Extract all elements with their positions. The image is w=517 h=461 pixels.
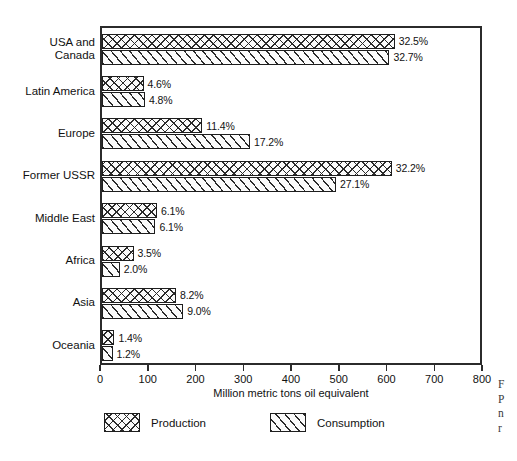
- x-tick-label: 200: [186, 373, 204, 385]
- side-caption-line: n: [498, 406, 517, 421]
- bar-group: Asia8.2%9.0%: [102, 288, 484, 319]
- bar-value-label: 17.2%: [254, 136, 283, 148]
- legend-label-production: Production: [151, 417, 206, 429]
- legend-swatch-consumption-icon: [270, 413, 306, 432]
- legend-label-consumption: Consumption: [317, 417, 385, 429]
- bar-value-label: 6.1%: [161, 205, 185, 217]
- bar-value-label: 27.1%: [340, 178, 369, 190]
- bar-row: 17.2%: [102, 134, 484, 149]
- legend-swatch-production-icon: [104, 413, 140, 432]
- x-tick-label: 500: [330, 373, 348, 385]
- bar-production: [102, 288, 176, 303]
- x-tick: [243, 365, 245, 371]
- side-caption-line: r: [498, 421, 517, 436]
- category-label: Former USSR: [6, 169, 102, 183]
- bar-group: Latin America4.6%4.8%: [102, 76, 484, 107]
- bar-value-label: 4.6%: [148, 78, 172, 90]
- x-tick-label: 0: [97, 373, 103, 385]
- bar-value-label: 1.2%: [117, 348, 141, 360]
- bar-row: 4.6%: [102, 76, 484, 91]
- x-tick: [290, 365, 292, 371]
- bar-row: 8.2%: [102, 288, 484, 303]
- bar-value-label: 4.8%: [149, 94, 173, 106]
- category-label: Asia: [6, 296, 102, 310]
- bar-row: 6.1%: [102, 203, 484, 218]
- x-tick-label: 600: [377, 373, 395, 385]
- side-caption-line: P: [498, 392, 517, 407]
- x-tick: [386, 365, 388, 371]
- side-caption: FPnr: [498, 377, 517, 435]
- x-tick: [147, 365, 149, 371]
- bar-row: 32.5%: [102, 34, 484, 49]
- x-tick-label: 400: [282, 373, 300, 385]
- side-caption-line: F: [498, 377, 517, 392]
- category-label: Africa: [6, 254, 102, 268]
- bar-group: Africa3.5%2.0%: [102, 246, 484, 277]
- bar-value-label: 6.1%: [159, 221, 183, 233]
- bar-value-label: 11.4%: [206, 120, 235, 132]
- plot-area: USA and Canada32.5%32.7%Latin America4.6…: [100, 26, 482, 365]
- bar-row: 11.4%: [102, 118, 484, 133]
- bar-consumption: [102, 346, 113, 361]
- bar-value-label: 9.0%: [187, 305, 211, 317]
- category-label: Oceania: [6, 339, 102, 353]
- x-tick: [481, 365, 483, 371]
- bar-group: Middle East6.1%6.1%: [102, 203, 484, 234]
- bar-value-label: 32.2%: [396, 162, 425, 174]
- bar-group: USA and Canada32.5%32.7%: [102, 34, 484, 65]
- x-tick-label: 100: [139, 373, 157, 385]
- bar-row: 6.1%: [102, 219, 484, 234]
- figure-root: USA and Canada32.5%32.7%Latin America4.6…: [0, 0, 517, 461]
- category-label: Latin America: [6, 85, 102, 99]
- x-tick-label: 700: [425, 373, 443, 385]
- bar-row: 1.4%: [102, 330, 484, 345]
- x-tick: [338, 365, 340, 371]
- x-tick: [195, 365, 197, 371]
- bar-production: [102, 330, 114, 345]
- bar-consumption: [102, 92, 145, 107]
- chart-legend: Production Consumption: [104, 413, 385, 432]
- category-label: Middle East: [6, 212, 102, 226]
- bar-value-label: 8.2%: [180, 289, 204, 301]
- x-axis: 0100200300400500600700800: [100, 365, 482, 366]
- bar-group: Europe11.4%17.2%: [102, 118, 484, 149]
- x-axis-title: Million metric tons oil equivalent: [100, 387, 482, 399]
- legend-item-production: Production: [104, 413, 206, 432]
- bar-value-label: 3.5%: [138, 247, 162, 259]
- bar-production: [102, 161, 392, 176]
- bar-production: [102, 203, 157, 218]
- bar-value-label: 32.7%: [393, 51, 422, 63]
- bar-production: [102, 246, 134, 261]
- x-tick-label: 800: [473, 373, 491, 385]
- bar-production: [102, 34, 395, 49]
- bar-production: [102, 118, 202, 133]
- bar-consumption: [102, 134, 250, 149]
- bar-consumption: [102, 219, 155, 234]
- bar-row: 3.5%: [102, 246, 484, 261]
- bar-value-label: 1.4%: [118, 332, 142, 344]
- bar-row: 32.7%: [102, 50, 484, 65]
- x-tick: [99, 365, 101, 371]
- bar-row: 1.2%: [102, 346, 484, 361]
- bar-consumption: [102, 177, 336, 192]
- bar-group: Oceania1.4%1.2%: [102, 330, 484, 361]
- bar-row: 2.0%: [102, 262, 484, 277]
- x-tick-label: 300: [234, 373, 252, 385]
- bar-consumption: [102, 262, 120, 277]
- bar-value-label: 2.0%: [124, 263, 148, 275]
- category-label: Europe: [6, 127, 102, 141]
- bar-row: 27.1%: [102, 177, 484, 192]
- bar-consumption: [102, 304, 183, 319]
- bar-row: 9.0%: [102, 304, 484, 319]
- legend-item-consumption: Consumption: [270, 413, 385, 432]
- bar-group: Former USSR32.2%27.1%: [102, 161, 484, 192]
- bar-row: 32.2%: [102, 161, 484, 176]
- x-tick: [434, 365, 436, 371]
- bar-production: [102, 76, 144, 91]
- bar-value-label: 32.5%: [399, 35, 428, 47]
- bar-consumption: [102, 50, 389, 65]
- category-label: USA and Canada: [6, 36, 102, 63]
- bar-row: 4.8%: [102, 92, 484, 107]
